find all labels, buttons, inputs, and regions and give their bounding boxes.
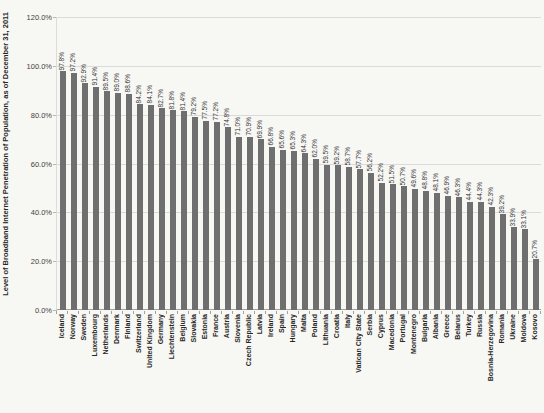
bar-value-label: 65.6% — [279, 130, 286, 148]
x-label-cell: France — [210, 314, 221, 410]
x-label-cell: Spain — [276, 314, 287, 410]
x-label-cell: Belarus — [452, 314, 463, 410]
x-label-cell: Turkey — [463, 314, 474, 410]
x-label-cell: Sweden — [78, 314, 89, 410]
bar-value-label: 56.2% — [367, 153, 374, 171]
bar — [291, 151, 297, 310]
bar-value-label: 89.0% — [114, 73, 121, 91]
bar — [302, 153, 308, 310]
x-category-label: Malta — [300, 314, 307, 332]
bar-column: 97.2% — [68, 17, 79, 310]
x-label-cell: Slovenia — [232, 314, 243, 410]
bar-value-label: 84.2% — [136, 85, 143, 103]
bar — [192, 117, 198, 310]
bar-column: 81.8% — [167, 17, 178, 310]
x-category-label: Germany — [157, 314, 164, 344]
bar-value-label: 52.2% — [378, 163, 385, 181]
x-category-label: Hungary — [289, 314, 296, 342]
bar-value-label: 92.9% — [81, 64, 88, 82]
bar-column: 57.7% — [354, 17, 365, 310]
bar-column: 77.2% — [211, 17, 222, 310]
bar-column: 46.9% — [442, 17, 453, 310]
bar-column: 48.1% — [431, 17, 442, 310]
bar-value-label: 77.5% — [202, 101, 209, 119]
bar-value-label: 71.0% — [235, 117, 242, 135]
bar-column: 64.3% — [299, 17, 310, 310]
bar-column: 84.2% — [134, 17, 145, 310]
bar-column: 77.5% — [200, 17, 211, 310]
x-label-cell: Switzerland — [133, 314, 144, 410]
y-axis-title-container: Level of Broadband Internet Penetration … — [1, 12, 13, 310]
bar — [401, 186, 407, 310]
chart-frame: Level of Broadband Internet Penetration … — [0, 0, 544, 413]
bar-value-label: 65.3% — [290, 131, 297, 149]
y-tick-label: 60.0% — [14, 160, 52, 169]
bar-value-label: 97.8% — [59, 52, 66, 70]
x-axis-category-labels: IcelandNorwaySwedenLuxembourgNetherlands… — [56, 314, 540, 410]
bar — [181, 111, 187, 310]
bar — [247, 137, 253, 310]
x-label-cell: Macedonia — [386, 314, 397, 410]
bar-column: 62.0% — [310, 17, 321, 310]
x-label-cell: Croatia — [331, 314, 342, 410]
bar — [357, 169, 363, 310]
x-category-label: Bosnia-Herzegovina — [487, 314, 494, 381]
bar-value-label: 69.9% — [257, 120, 264, 138]
bar-value-label: 59.5% — [323, 145, 330, 163]
y-axis-title: Level of Broadband Internet Penetration … — [2, 12, 10, 296]
x-category-label: Bulgaria — [421, 314, 428, 342]
bar — [368, 173, 374, 310]
bar-column: 44.3% — [475, 17, 486, 310]
x-label-cell: Serbia — [364, 314, 375, 410]
bar — [93, 87, 99, 310]
x-category-label: Greece — [443, 314, 450, 338]
x-label-cell: Denmark — [111, 314, 122, 410]
y-tick-label: 0.0% — [14, 306, 52, 315]
x-category-label: Denmark — [113, 314, 120, 344]
x-category-label: Liechtenstein — [168, 314, 175, 359]
x-label-cell: Luxembourg — [89, 314, 100, 410]
bar-value-label: 42.3% — [488, 187, 495, 205]
x-category-label: Austria — [223, 314, 230, 338]
bar-value-label: 81.8% — [169, 91, 176, 109]
bar-value-label: 89.5% — [103, 72, 110, 90]
x-category-label: Poland — [311, 314, 318, 337]
bar-value-label: 81.4% — [180, 92, 187, 110]
x-category-label: Sweden — [80, 314, 87, 340]
bar-column: 81.4% — [178, 17, 189, 310]
bar-column: 48.8% — [420, 17, 431, 310]
bar-value-label: 44.3% — [477, 182, 484, 200]
bar-value-label: 59.2% — [334, 146, 341, 164]
y-tick-label: 20.0% — [14, 257, 52, 266]
bar — [126, 94, 132, 310]
bar-column: 42.3% — [486, 17, 497, 310]
bar-value-label: 88.6% — [125, 74, 132, 92]
bar-column: 51.5% — [387, 17, 398, 310]
bar-value-label: 33.1% — [521, 210, 528, 228]
bar — [467, 202, 473, 310]
x-category-label: Macedonia — [388, 314, 395, 350]
x-label-cell: Malta — [298, 314, 309, 410]
bar-column: 89.5% — [101, 17, 112, 310]
bar-value-label: 44.4% — [466, 182, 473, 200]
x-category-label: Lithuania — [322, 314, 329, 345]
x-label-cell: Netherlands — [100, 314, 111, 410]
bar — [379, 183, 385, 310]
bar-column: 91.4% — [90, 17, 101, 310]
bar-value-label: 62.0% — [312, 139, 319, 157]
x-label-cell: Cyprus — [375, 314, 386, 410]
x-label-cell: Poland — [309, 314, 320, 410]
x-category-label: Slovakia — [190, 314, 197, 342]
x-label-cell: Italy — [342, 314, 353, 410]
bar-column: 59.5% — [321, 17, 332, 310]
bar-column: 82.7% — [156, 17, 167, 310]
bar — [148, 105, 154, 310]
x-label-cell: Russia — [474, 314, 485, 410]
bar — [236, 137, 242, 310]
bar-value-label: 51.5% — [389, 165, 396, 183]
bar — [225, 127, 231, 310]
x-category-label: Slovenia — [234, 314, 241, 343]
x-label-cell: Greece — [441, 314, 452, 410]
bar-value-label: 20.7% — [532, 240, 539, 258]
x-label-cell: Liechtenstein — [166, 314, 177, 410]
